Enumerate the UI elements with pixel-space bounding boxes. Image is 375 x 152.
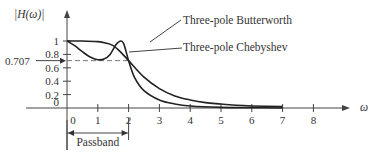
x-tick-label-7: 7: [280, 114, 286, 126]
y-tick-label-0.8: 0.8: [45, 48, 59, 60]
x-axis-label: ω: [360, 101, 368, 113]
x-tick-label-6: 6: [249, 114, 255, 126]
y-tick-label-0.6: 0.6: [45, 62, 59, 74]
passband-label: Passband: [76, 136, 119, 148]
reference-arrow: [60, 58, 66, 64]
butterworth-leader: [150, 20, 181, 42]
x-tick-label-0: 0: [70, 114, 76, 126]
reference-label: 0.707: [5, 55, 30, 67]
y-axis-label: |H(ω)|: [14, 8, 44, 21]
x-tick-label-1: 1: [95, 114, 101, 126]
legend-butterworth: Three-pole Butterworth: [183, 14, 292, 27]
frequency-response-chart: ω |H(ω)| 012345678 00.20.40.60.81 0.707 …: [0, 0, 375, 152]
passband-arrow-right: [122, 130, 128, 136]
x-tick-label-8: 8: [311, 114, 317, 126]
y-tick-label-0.4: 0.4: [45, 75, 59, 87]
x-tick-label-4: 4: [187, 114, 193, 126]
chebyshev-leader: [129, 48, 182, 52]
y-tick-label-0.2: 0.2: [45, 89, 59, 101]
x-tick-label-5: 5: [218, 114, 224, 126]
x-axis-arrow: [342, 105, 350, 111]
passband-arrow-left: [68, 130, 74, 136]
x-tick-label-3: 3: [157, 114, 163, 126]
legend-chebyshev: Three-pole Chebyshev: [183, 41, 288, 54]
y-tick-label-1: 1: [54, 35, 60, 47]
y-axis-arrow: [64, 10, 70, 18]
